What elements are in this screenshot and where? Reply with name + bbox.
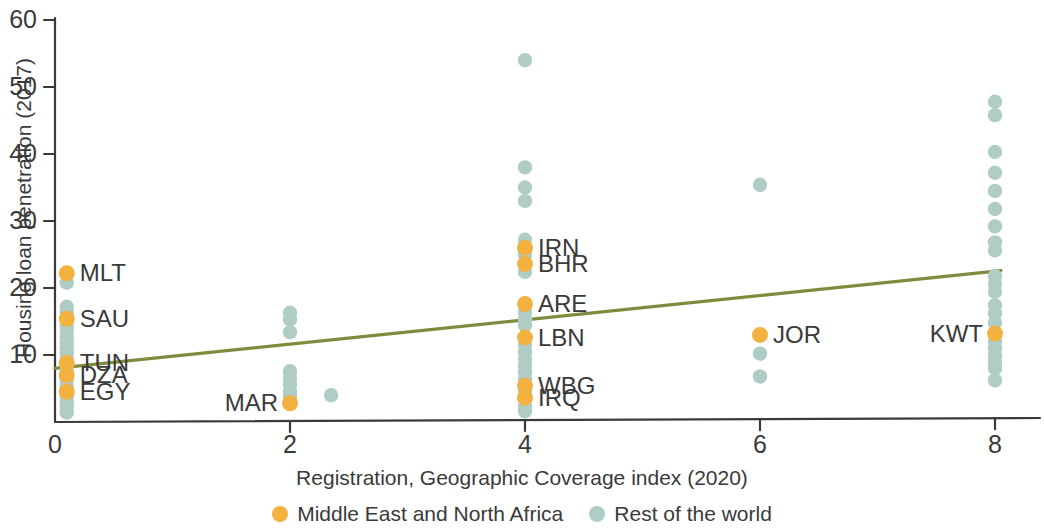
data-point: [988, 285, 1002, 299]
x-tick-label: 0: [15, 430, 95, 459]
data-point: [988, 243, 1002, 257]
x-tick-label: 2: [250, 430, 330, 459]
data-point: [988, 145, 1002, 159]
data-point: [988, 184, 1002, 198]
x-axis-title: Registration, Geographic Coverage index …: [0, 466, 1044, 490]
data-point: [988, 95, 1002, 109]
data-point: [59, 265, 75, 281]
data-point: [518, 194, 532, 208]
data-point: [753, 369, 767, 383]
data-point: [518, 180, 532, 194]
point-label-are: ARE: [538, 292, 587, 316]
data-point: [988, 202, 1002, 216]
data-point: [517, 240, 533, 256]
data-point: [517, 256, 533, 272]
x-axis-line: [55, 418, 1040, 422]
data-point: [517, 296, 533, 312]
data-point: [283, 312, 297, 326]
point-label-mlt: MLT: [80, 261, 126, 285]
point-label-bhr: BHR: [538, 252, 589, 276]
legend-entry[interactable]: Rest of the world: [589, 502, 772, 526]
data-point: [517, 330, 533, 346]
legend-marker-circle-icon: [589, 506, 605, 522]
x-tick-label: 4: [485, 430, 565, 459]
data-point: [517, 390, 533, 406]
data-point: [282, 395, 298, 411]
legend-label: Middle East and North Africa: [297, 502, 563, 526]
point-label-sau: SAU: [80, 307, 129, 331]
data-point: [59, 311, 75, 327]
x-tick-label: 8: [955, 430, 1035, 459]
data-point: [518, 160, 532, 174]
point-label-kwt: KWT: [745, 322, 983, 346]
x-tick-label: 6: [720, 430, 800, 459]
legend-label: Rest of the world: [614, 502, 772, 526]
data-point: [988, 166, 1002, 180]
legend-entry[interactable]: Middle East and North Africa: [272, 502, 563, 526]
data-point: [988, 373, 1002, 387]
scatter-plot-figure: 102030405060 02468 MLTSAUTUNDZAEGYMARIRN…: [0, 0, 1044, 532]
legend-marker-circle-icon: [272, 506, 288, 522]
data-point: [324, 388, 338, 402]
y-axis-title: Housing loan penetration (2017): [12, 8, 36, 408]
data-point: [283, 325, 297, 339]
point-label-mar: MAR: [40, 391, 278, 415]
data-point: [753, 178, 767, 192]
axes: [44, 18, 1040, 432]
point-label-lbn: LBN: [538, 326, 585, 350]
point-label-irq: IRQ: [538, 386, 581, 410]
data-point: [988, 219, 1002, 233]
data-point: [988, 108, 1002, 122]
chart-legend: Middle East and North AfricaRest of the …: [0, 502, 1044, 526]
series-rest-of-the-world-points: [60, 53, 1003, 420]
data-point: [59, 367, 75, 383]
data-point: [518, 53, 532, 67]
data-point: [987, 326, 1003, 342]
data-point: [753, 346, 767, 360]
data-point: [518, 404, 532, 418]
